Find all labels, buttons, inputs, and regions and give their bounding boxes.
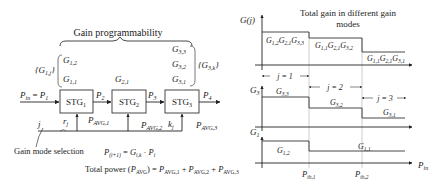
gain-mode-plot: Total gain in different gain modes G(j) …	[240, 8, 428, 180]
r-label: rj	[63, 116, 69, 127]
stage1-set-label: {G1,j}	[35, 65, 55, 76]
avg-power-2: PAVG,2	[140, 120, 162, 131]
gain-mode-figure: Gain programmability {G1,j} G1,2 G1,1 G2…	[0, 0, 445, 188]
avg-power-3: PAVG,3	[195, 120, 217, 131]
power-formula: P(i+1) = Gi,k · Pi	[103, 147, 156, 159]
gain-programmability-title: Gain programmability	[73, 27, 162, 38]
threshold-2-label: Pth,2	[354, 169, 369, 180]
plot-title-line2: modes	[336, 19, 360, 29]
stage-3-label: STG3	[172, 97, 192, 108]
stage-1-label: STG1	[66, 97, 86, 108]
g3-axis-label: G3	[250, 85, 260, 96]
g1-level-2: G1,2	[277, 146, 290, 156]
stage-2-label: STG2	[119, 97, 139, 108]
stage1-gain-2: G1,2	[63, 55, 77, 66]
gain-mode-selection-label: Gain mode selection	[14, 146, 85, 156]
stage3-gain-3: G3,3	[172, 44, 186, 55]
stage2-gain-1: G2,1	[115, 74, 129, 85]
p2-label: P2	[95, 90, 105, 101]
pin-axis-label: Pin	[417, 160, 428, 171]
g1-axis-label: G1	[250, 127, 260, 138]
threshold-1-label: Pth,1	[301, 169, 316, 180]
stage1-gain-1: G1,1	[63, 74, 77, 85]
stage3-gain-1: G3,1	[172, 74, 186, 85]
p3-label: P3	[147, 90, 157, 101]
block-diagram: Gain programmability {G1,j} G1,2 G1,1 G2…	[14, 27, 239, 175]
mode-1-label: j = 1	[276, 72, 293, 81]
g1-level-1: G1,1	[358, 142, 371, 152]
stage1-bracket	[58, 55, 62, 87]
stage3-gain-2: G3,2	[172, 59, 186, 70]
mode-index-j: j	[37, 119, 41, 129]
stage3-set-label: {G3,k}	[198, 60, 219, 71]
total-gain-axis-label: G(j)	[240, 15, 255, 25]
g3-level-2: G3,2	[330, 98, 343, 108]
input-power-label: Pin = P1	[19, 90, 48, 101]
stage3-bracket	[190, 46, 195, 86]
g3-level-3: G3,3	[276, 87, 289, 97]
mode-3-label: j = 3	[376, 94, 393, 103]
k-label: kj	[168, 119, 174, 130]
plot-title-line1: Total gain in different gain	[300, 8, 397, 18]
avg-power-1: PAVG,1	[87, 115, 109, 126]
total-gain-mode-1: G1,2G2,1G3,3	[266, 36, 304, 46]
total-power-formula: Total power (PAVG) = PAVG,1 + PAVG,2 + P…	[85, 164, 239, 175]
total-gain-mode-3: G1,1G2,1G3,1	[367, 54, 405, 64]
mode-2-label: j = 2	[326, 83, 343, 92]
p4-label: P4	[202, 90, 212, 101]
total-gain-mode-2: G1,1G2,1G3,2	[315, 41, 353, 51]
g3-level-1: G3,1	[383, 108, 396, 118]
